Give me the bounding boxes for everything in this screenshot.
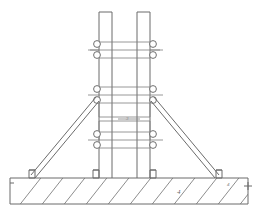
clamp-bolt-pair-top-right: [150, 41, 157, 59]
brace-left: [31, 97, 99, 178]
engineering-drawing-canvas: 3 4 4: [0, 0, 255, 215]
annotation-foundation-label: 4: [177, 188, 181, 196]
foundation-slab: [10, 174, 255, 212]
anchor-column-left: [93, 170, 99, 178]
foundation-hatching: [14, 174, 255, 212]
annotation-right-anchor-label: 4: [227, 182, 230, 187]
structural-frame-drawing: 3 4 4: [0, 0, 255, 215]
brace-right: [151, 97, 219, 178]
clamp-bolt-pair-middle-right: [150, 86, 157, 104]
clamp-bolt-pair-lower-right: [150, 131, 157, 149]
anchor-right-brace: [216, 170, 222, 178]
anchor-column-right: [150, 170, 156, 178]
